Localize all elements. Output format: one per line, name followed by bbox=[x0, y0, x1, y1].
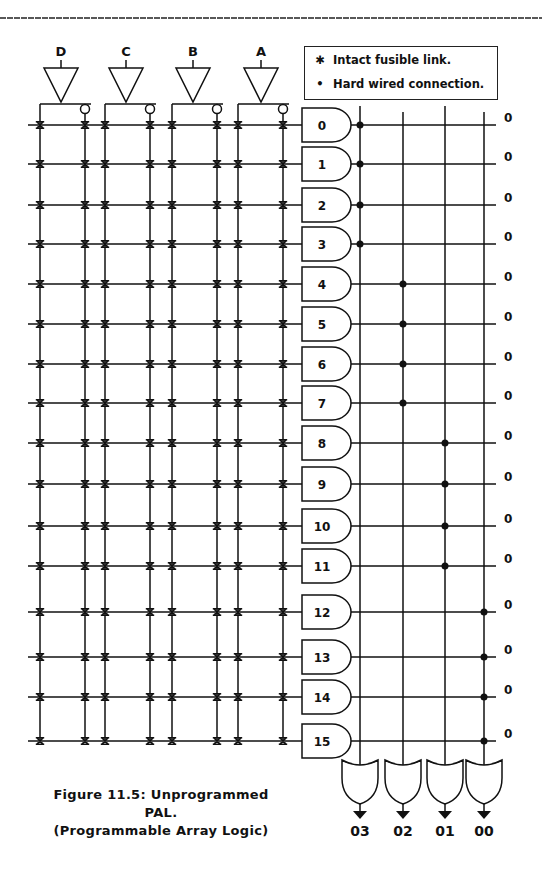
or-gates: 03020100 bbox=[342, 760, 502, 839]
hardwire-dot-icon bbox=[400, 361, 407, 368]
hardwire-dot-icon bbox=[400, 321, 407, 328]
and-gate-label: 9 bbox=[318, 478, 326, 492]
hardwire-dot-icon bbox=[400, 281, 407, 288]
row-output-value: 0 bbox=[504, 512, 512, 526]
row-output-value: 0 bbox=[504, 429, 512, 443]
and-gate-label: 4 bbox=[318, 278, 326, 292]
hardwire-dot-icon bbox=[481, 738, 488, 745]
hardwire-dot-icon bbox=[357, 161, 364, 168]
and-gate-label: 7 bbox=[318, 397, 326, 411]
hardwire-dot-icon bbox=[442, 523, 449, 530]
and-gate-label: 8 bbox=[318, 437, 326, 451]
and-gate-icon bbox=[302, 307, 351, 341]
inverter-bubble-icon bbox=[213, 105, 222, 114]
fuse-grid bbox=[28, 104, 303, 744]
buffer-triangle-icon bbox=[109, 68, 143, 102]
and-gate-icon bbox=[302, 467, 351, 501]
inverter-bubble-icon bbox=[279, 105, 288, 114]
buffer-triangle-icon bbox=[44, 68, 78, 102]
input-buffers: DCBA bbox=[40, 44, 289, 114]
row-output-value: 0 bbox=[504, 350, 512, 364]
figure-caption: Figure 11.5: Unprogrammed PAL. (Programm… bbox=[36, 786, 286, 840]
and-gate-label: 15 bbox=[314, 735, 331, 749]
hardwire-dot-icon bbox=[481, 654, 488, 661]
legend-fuse-label: Intact fusible link. bbox=[333, 53, 451, 67]
hardwire-dot-icon bbox=[481, 609, 488, 616]
hardwire-dot-icon bbox=[357, 241, 364, 248]
hardwire-dot-icon bbox=[442, 481, 449, 488]
and-gate-label: 6 bbox=[318, 358, 326, 372]
hardwire-dot-icon bbox=[400, 400, 407, 407]
buffer-triangle-icon bbox=[176, 68, 210, 102]
hardwire-dot-icon bbox=[442, 563, 449, 570]
hardwire-dot-icon bbox=[357, 202, 364, 209]
output-label: 02 bbox=[393, 823, 412, 839]
input-label: A bbox=[256, 44, 266, 59]
input-label: C bbox=[121, 44, 131, 59]
hardwire-dot-icon: • bbox=[311, 77, 329, 91]
and-gate-label: 11 bbox=[314, 560, 331, 574]
input-label: D bbox=[56, 44, 67, 59]
hardwire-dot-icon bbox=[481, 694, 488, 701]
row-output-value: 0 bbox=[504, 598, 512, 612]
and-gate-label: 0 bbox=[318, 119, 326, 133]
fuse-x-icon: ✱ bbox=[311, 53, 329, 67]
row-output-value: 0 bbox=[504, 111, 512, 125]
row-output-value: 0 bbox=[504, 191, 512, 205]
output-arrow-icon bbox=[396, 811, 410, 819]
caption-line-1: Figure 11.5: Unprogrammed PAL. bbox=[36, 786, 286, 822]
and-gates: 00102030405060708090100110120130140150 bbox=[302, 106, 512, 770]
and-gate-icon bbox=[302, 267, 351, 301]
inverter-bubble-icon bbox=[81, 105, 90, 114]
row-output-value: 0 bbox=[504, 643, 512, 657]
caption-line-2: (Programmable Array Logic) bbox=[36, 822, 286, 840]
row-output-value: 0 bbox=[504, 389, 512, 403]
output-label: 03 bbox=[350, 823, 369, 839]
row-output-value: 0 bbox=[504, 683, 512, 697]
and-gate-icon bbox=[302, 227, 351, 261]
pal-diagram: DCBA 00102030405060708090100110120130140… bbox=[0, 0, 542, 871]
and-gate-icon bbox=[302, 386, 351, 420]
or-gate-icon bbox=[385, 760, 421, 804]
row-output-value: 0 bbox=[504, 270, 512, 284]
row-output-value: 0 bbox=[504, 230, 512, 244]
output-arrow-icon bbox=[353, 811, 367, 819]
legend-fuse: ✱ Intact fusible link. bbox=[311, 53, 451, 67]
row-output-value: 0 bbox=[504, 727, 512, 741]
input-label: B bbox=[188, 44, 198, 59]
and-gate-label: 13 bbox=[314, 651, 331, 665]
and-gate-label: 5 bbox=[318, 318, 326, 332]
output-label: 01 bbox=[435, 823, 454, 839]
output-label: 00 bbox=[474, 823, 494, 839]
legend-box: ✱ Intact fusible link. • Hard wired conn… bbox=[304, 46, 498, 100]
or-gate-icon bbox=[466, 760, 502, 804]
and-gate-icon bbox=[302, 426, 351, 460]
hardwire-dot-icon bbox=[442, 440, 449, 447]
or-gate-icon bbox=[342, 760, 378, 804]
and-gate-icon bbox=[302, 347, 351, 381]
or-gate-icon bbox=[427, 760, 463, 804]
hardwire-dot-icon bbox=[357, 122, 364, 129]
buffer-triangle-icon bbox=[244, 68, 278, 102]
row-output-value: 0 bbox=[504, 150, 512, 164]
legend-hardwire: • Hard wired connection. bbox=[311, 77, 484, 91]
and-gate-label: 3 bbox=[318, 238, 326, 252]
inverter-bubble-icon bbox=[146, 105, 155, 114]
and-gate-icon bbox=[302, 108, 351, 142]
and-gate-label: 14 bbox=[314, 691, 331, 705]
and-gate-icon bbox=[302, 188, 351, 222]
row-output-value: 0 bbox=[504, 552, 512, 566]
legend-hardwire-label: Hard wired connection. bbox=[333, 77, 484, 91]
row-output-value: 0 bbox=[504, 310, 512, 324]
output-arrow-icon bbox=[438, 811, 452, 819]
row-output-value: 0 bbox=[504, 470, 512, 484]
output-arrow-icon bbox=[477, 811, 491, 819]
and-gate-label: 2 bbox=[318, 199, 326, 213]
and-gate-label: 1 bbox=[318, 158, 326, 172]
and-gate-icon bbox=[302, 147, 351, 181]
and-gate-label: 12 bbox=[314, 606, 331, 620]
and-gate-label: 10 bbox=[314, 520, 331, 534]
